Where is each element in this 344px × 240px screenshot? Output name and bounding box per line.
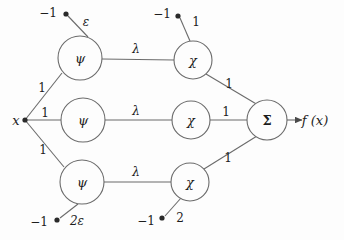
weight-bias-psi-top: ε xyxy=(83,16,89,28)
diagram-canvas: ψ ψ ψ χ χ χ Σ x f (x) −1 −1 −1 −1 1 1 1 … xyxy=(0,0,344,240)
node-sigma-label: Σ xyxy=(262,114,271,127)
node-psi-bottom-label: ψ xyxy=(77,176,87,189)
bias-psi-top-label: −1 xyxy=(39,7,57,19)
weight-bias-chi-bottom: 2 xyxy=(176,212,184,224)
bias-psi-bottom-label: −1 xyxy=(30,216,48,228)
weight-x-to-psi-bottom: 1 xyxy=(39,144,47,156)
bias-chi-top-dot xyxy=(175,13,180,18)
edge-psi-top-to-chi-top xyxy=(102,59,174,60)
input-label: x xyxy=(12,114,19,127)
edge-bias-to-chi-top xyxy=(180,18,190,41)
weight-psi-top-to-chi-top: λ xyxy=(132,43,140,55)
input-dot xyxy=(22,117,27,122)
weight-psi-middle-to-chi-middle: λ xyxy=(132,105,140,117)
weight-chi-middle-to-sigma: 1 xyxy=(222,106,230,118)
weight-bias-psi-bottom: 2ε xyxy=(70,215,84,227)
weight-bias-chi-top: 1 xyxy=(192,16,200,28)
weight-x-to-psi-top: 1 xyxy=(38,82,46,94)
node-chi-top-label: χ xyxy=(189,54,197,67)
weight-psi-bottom-to-chi-bottom: λ xyxy=(132,166,140,178)
node-psi-top-label: ψ xyxy=(75,52,85,65)
diagram-svg xyxy=(0,0,344,240)
node-chi-middle-label: χ xyxy=(187,114,195,127)
weight-chi-top-to-sigma: 1 xyxy=(225,78,233,90)
weight-x-to-psi-middle: 1 xyxy=(41,107,49,119)
node-psi-middle-label: ψ xyxy=(78,114,88,127)
bias-chi-bottom-label: −1 xyxy=(137,215,155,227)
bias-chi-bottom-dot xyxy=(159,215,164,220)
bias-chi-top-label: −1 xyxy=(153,8,171,20)
weight-chi-bottom-to-sigma: 1 xyxy=(224,152,232,164)
output-label: f (x) xyxy=(302,114,328,127)
bias-psi-top-dot xyxy=(63,11,68,16)
node-chi-bottom-label: χ xyxy=(186,176,194,189)
bias-psi-bottom-dot xyxy=(54,217,59,222)
